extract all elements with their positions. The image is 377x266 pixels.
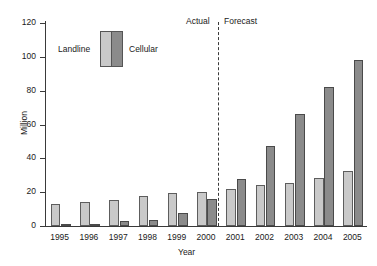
bar-cellular-2003 [295,114,305,226]
bar-cellular-1996 [90,224,100,226]
bar-cellular-2001 [237,179,247,226]
forecast-label: Forecast [224,16,257,26]
legend-swatch [100,31,123,67]
bars-layer [45,23,367,226]
legend-swatch-cellular [112,32,122,66]
bar-cellular-2004 [324,87,334,226]
actual-label: Actual [186,16,210,26]
bar-landline-2003 [285,183,295,226]
bar-landline-2005 [343,171,353,226]
bar-landline-1997 [109,200,119,226]
y-tick-label: 40 [8,153,36,162]
bar-cellular-1999 [178,213,188,226]
x-axis-line [45,226,367,227]
legend-landline-label: Landline [58,44,90,54]
bar-landline-2000 [197,192,207,226]
bar-landline-2001 [226,189,236,226]
x-tick-label-2005: 2005 [332,232,372,242]
bar-landline-1996 [80,202,90,226]
y-tick-label: 0 [8,221,36,230]
bar-landline-1995 [51,204,61,226]
y-tick [40,226,45,227]
y-tick-label: 120 [8,18,36,27]
bar-chart: 020406080100120 Million Actual Forecast … [0,0,377,266]
y-tick-label: 20 [8,187,36,196]
y-tick-label: 100 [8,52,36,61]
bar-cellular-2005 [354,60,364,226]
bar-cellular-2002 [266,146,276,226]
legend-swatch-landline [101,32,112,66]
bar-cellular-1998 [149,220,159,226]
bar-landline-1999 [168,193,178,226]
bar-landline-2002 [256,185,266,226]
bar-cellular-1995 [61,224,71,226]
bar-landline-2004 [314,178,324,226]
bar-cellular-2000 [207,199,217,226]
era-divider [218,22,219,226]
x-axis-title: Year [178,247,195,257]
bar-cellular-1997 [120,221,130,226]
legend-cellular-label: Cellular [129,44,158,54]
y-axis-title: Million [19,93,29,153]
bar-landline-1998 [139,196,149,226]
